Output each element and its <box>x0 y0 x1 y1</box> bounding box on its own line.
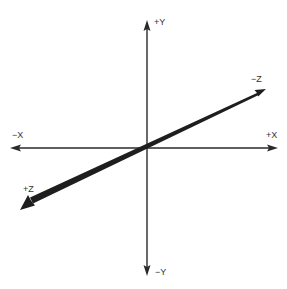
coordinate-axes-diagram: +Y −Y −X +X −Z +Z <box>0 0 287 289</box>
pos-x-label: +X <box>266 131 277 140</box>
pos-z-label: +Z <box>23 185 34 194</box>
neg-y-label: −Y <box>155 268 166 277</box>
pos-y-label: +Y <box>154 18 165 27</box>
axes-svg <box>0 0 287 289</box>
z-axis <box>20 89 266 210</box>
neg-z-label: −Z <box>251 75 262 84</box>
neg-x-label: −X <box>12 131 23 140</box>
